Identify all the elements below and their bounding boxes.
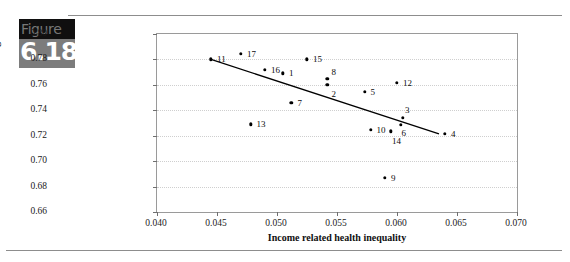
top-rule (68, 15, 562, 16)
x-tick-label: 0.045 (194, 218, 238, 228)
x-tick-label: 0.055 (314, 218, 358, 228)
data-point-label: 16 (271, 66, 280, 75)
y-tick-label: 0.80 (7, 28, 47, 38)
bottom-rule (6, 250, 562, 251)
y-tick-label: 0.70 (7, 155, 47, 165)
x-tick-label: 0.070 (494, 218, 538, 228)
x-tick-label: 0.065 (434, 218, 478, 228)
x-tick-mark (217, 212, 218, 216)
y-tick-label: 0.76 (7, 79, 47, 89)
y-tick-label: 0.78 (7, 53, 47, 63)
data-point-label: 15 (313, 55, 322, 64)
x-tick-mark (157, 212, 158, 216)
x-tick-label: 0.060 (374, 218, 418, 228)
y-axis-title: Average health (0, 8, 1, 72)
data-point-label: 9 (391, 174, 396, 183)
data-point-label: 12 (403, 79, 412, 88)
data-point-label: 7 (297, 99, 302, 108)
data-point-label: 2 (331, 90, 336, 99)
y-tick-label: 0.74 (7, 104, 47, 114)
y-tick-label: 0.72 (7, 130, 47, 140)
data-point-label: 4 (451, 130, 456, 139)
data-point-label: 8 (331, 68, 336, 77)
x-tick-mark (277, 212, 278, 216)
data-point-label: 14 (392, 137, 401, 146)
data-point-label: 17 (247, 50, 256, 59)
x-tick-mark (397, 212, 398, 216)
x-tick-label: 0.040 (134, 218, 178, 228)
x-tick-mark (457, 212, 458, 216)
x-tick-mark (337, 212, 338, 216)
data-point-label: 13 (257, 120, 266, 129)
x-tick-mark (517, 212, 518, 216)
data-point-label: 6 (402, 129, 407, 138)
data-point-label: 10 (377, 126, 386, 135)
y-tick-label: 0.68 (7, 181, 47, 191)
data-point-label: 3 (405, 106, 410, 115)
data-point-label: 5 (371, 88, 376, 97)
data-point-label: 11 (217, 55, 226, 64)
figure-container: Figure 6.18 Average health Income relate… (0, 0, 570, 262)
x-tick-label: 0.050 (254, 218, 298, 228)
x-axis-title: Income related health inequality (156, 232, 518, 243)
y-tick-label: 0.66 (7, 206, 47, 216)
data-point-label: 1 (289, 69, 294, 78)
plot-area: 1117161157138251236101449 (156, 33, 518, 213)
